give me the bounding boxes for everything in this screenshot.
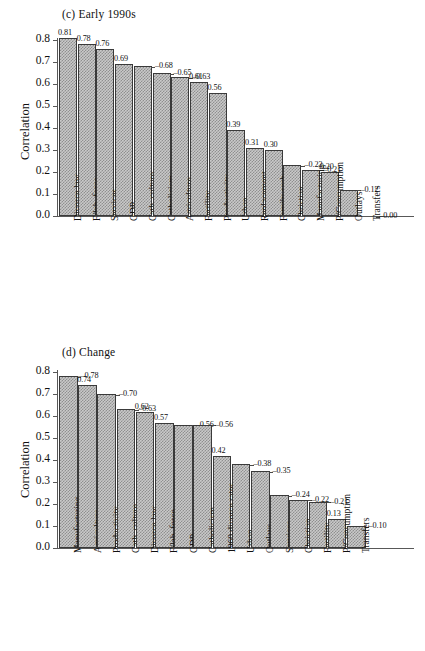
y-tick-label: 0.2 [18,496,50,508]
y-tick [53,394,57,395]
bar-value-label: 0.56 [208,83,222,92]
bar-value-label: –0.10 [369,521,387,530]
x-category-label: Outlays [353,192,364,222]
y-tick [53,438,57,439]
y-tick-label: 0.7 [18,54,50,66]
bar-value-label: 0.81 [58,28,72,37]
y-tick-label: 0.3 [18,142,50,154]
y-tick [53,84,57,85]
y-tick-label: 0.5 [18,430,50,442]
y-tick [53,40,57,41]
bar-value-label: 0.78 [77,34,91,43]
bar[interactable] [115,64,133,216]
bar-value-label: 0.57 [154,413,168,422]
panel-title-c: (c) Early 1990s [62,8,136,20]
y-tick-label: 0.8 [18,32,50,44]
bar-value-label: 0.13 [327,509,341,518]
y-tick-label: 0.2 [18,164,50,176]
y-tick [53,416,57,417]
y-tick [53,106,57,107]
chart-panel-change: (d) Change Correlation 0.00.10.20.30.40.… [0,330,425,651]
y-tick-label: 0.0 [18,540,50,552]
bar-value-label: 0.76 [95,39,109,48]
y-tick-label: 0.3 [18,474,50,486]
y-tick-label: 0.6 [18,408,50,420]
y-tick-label: 0.5 [18,98,50,110]
y-tick [53,150,57,151]
y-tick [53,526,57,527]
y-tick [53,460,57,461]
bar-value-label: 0.31 [245,138,259,147]
y-tick [53,62,57,63]
y-tick-label: 0.7 [18,386,50,398]
bar-value-label: –0.68 [155,61,173,70]
bar-value-label: 0.74 [77,375,91,384]
y-tick [53,372,57,373]
y-tick [53,128,57,129]
x-category-label: Transfers [360,518,371,553]
panel-title-d: (d) Change [62,346,115,358]
y-tick [53,194,57,195]
y-tick [53,216,57,217]
y-tick-label: 0.0 [18,208,50,220]
bar-value-label: 0.62 [135,402,149,411]
y-tick [53,504,57,505]
y-tick [53,482,57,483]
y-tick-label: 0.1 [18,518,50,530]
chart-panel-early-1990s: (c) Early 1990s Correlation 0.00.10.20.3… [0,0,425,330]
bar-value-label: 0.42 [212,446,226,455]
y-tick-label: 0.1 [18,186,50,198]
x-category-label: Transfers [371,186,382,221]
bar-value-label: 0.30 [264,140,278,149]
bar-value-label: –0.56 [215,420,233,429]
y-axis-label-d: Correlation [18,441,33,498]
y-tick-label: 0.8 [18,364,50,376]
bar[interactable] [174,425,193,548]
bar-value-label: 0.61 [189,72,203,81]
y-tick [53,548,57,549]
bar-value-label: –0.38 [253,459,271,468]
bar-value-label: –0.24 [292,490,310,499]
bar-value-label: 0.20 [320,162,334,171]
y-tick-label: 0.4 [18,452,50,464]
bar-value-label: –0.35 [273,466,291,475]
bar-value-label: 0.39 [226,120,240,129]
bar-value-label: 0.69 [114,54,128,63]
y-tick-label: 0.4 [18,120,50,132]
bar-value-label: –0.70 [119,389,137,398]
y-tick [53,172,57,173]
y-tick-label: 0.6 [18,76,50,88]
